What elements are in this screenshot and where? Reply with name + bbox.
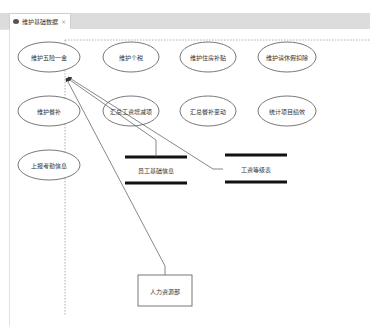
datastore-label: 员工基础信息	[138, 166, 174, 175]
process-label: 维护住房补贴	[190, 53, 226, 62]
process-label: 维护个税	[119, 53, 143, 62]
process-label: 维护请休假扣除	[266, 53, 308, 62]
entity-label: 人力资源部	[150, 287, 180, 296]
process-label: 汇总餐补变动	[190, 107, 226, 116]
process-label: 统计项目绩效	[269, 107, 305, 116]
process-label: 维护五险一金	[31, 53, 67, 62]
process-label: 上报考勤信息	[31, 161, 67, 170]
process-label: 汇总工资增减项	[110, 107, 152, 116]
system-boundary	[65, 40, 370, 316]
process-label: 维护餐补	[37, 107, 61, 116]
datastore-label: 工资等级表	[241, 165, 271, 174]
